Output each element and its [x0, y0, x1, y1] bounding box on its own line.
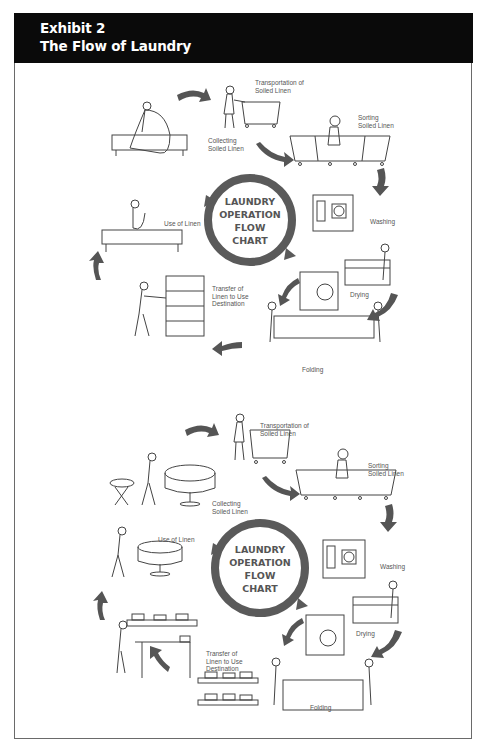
- folding-illustration: [268, 272, 382, 342]
- step-label-washing: Washing: [380, 563, 405, 571]
- flow-chart-panel-2: LAUNDRY OPERATION FLOW CHART Collecting …: [80, 410, 440, 730]
- center-line: FLOW: [210, 221, 290, 234]
- drying-illustration: [353, 581, 398, 623]
- step-label-use: Use of Linen: [164, 220, 201, 228]
- flow-chart-center-title: LAUNDRY OPERATION FLOW CHART: [220, 543, 300, 595]
- center-line: LAUNDRY: [220, 543, 300, 556]
- step-label-folding: Folding: [302, 366, 323, 374]
- arrow-icon: [177, 88, 211, 102]
- arrow-icon: [89, 251, 104, 280]
- step-label-transfer: Transfer of Linen to Use Destination: [212, 285, 249, 308]
- arrow-icon: [367, 293, 398, 321]
- arrow-icon: [212, 341, 242, 356]
- exhibit-header: Exhibit 2 The Flow of Laundry: [14, 13, 473, 63]
- center-line: LAUNDRY: [210, 195, 290, 208]
- arrow-icon: [185, 423, 219, 437]
- washing-illustration: [323, 540, 365, 578]
- center-line: CHART: [210, 234, 290, 247]
- transfer-illustration: [135, 276, 204, 336]
- collecting-illustration: [110, 453, 215, 506]
- step-label-sorting: Sorting Soiled Linen: [368, 462, 404, 477]
- step-label-sorting: Sorting Soiled Linen: [358, 114, 394, 129]
- step-label-washing: Washing: [370, 218, 395, 226]
- step-label-collecting: Collecting Soiled Linen: [208, 137, 244, 152]
- ring-arrowhead-icon: [296, 598, 308, 610]
- arrow-icon: [150, 646, 170, 672]
- step-label-drying: Drying: [356, 630, 375, 638]
- arrow-icon: [278, 278, 300, 306]
- flow-chart-panel-1: LAUNDRY OPERATION FLOW CHART Collecting …: [80, 80, 440, 400]
- step-label-drying: Drying: [350, 291, 369, 299]
- center-line: OPERATION: [220, 556, 300, 569]
- collecting-illustration: [112, 102, 187, 156]
- step-label-use: Use of Linen: [158, 536, 195, 544]
- use-illustration: [112, 527, 182, 577]
- arrow-icon: [282, 618, 304, 646]
- center-line: CHART: [220, 582, 300, 595]
- arrow-icon: [372, 168, 389, 196]
- step-label-transportation: Transportation of Soiled Linen: [255, 79, 304, 94]
- center-line: OPERATION: [210, 208, 290, 221]
- exhibit-title: The Flow of Laundry: [40, 38, 191, 54]
- exhibit-number: Exhibit 2: [40, 20, 105, 36]
- arrow-icon: [93, 591, 108, 620]
- arrow-icon: [262, 476, 300, 501]
- arrow-icon: [371, 630, 402, 658]
- step-label-folding: Folding: [310, 704, 331, 712]
- flow-chart-center-title: LAUNDRY OPERATION FLOW CHART: [210, 195, 290, 247]
- arrow-icon: [256, 142, 294, 167]
- center-line: FLOW: [220, 569, 300, 582]
- step-label-transportation: Transportation of Soiled Linen: [260, 422, 309, 437]
- washing-illustration: [313, 195, 353, 231]
- ring-arrowhead-icon: [284, 248, 296, 260]
- step-label-collecting: Collecting Soiled Linen: [212, 500, 248, 515]
- step-label-transfer: Transfer of Linen to Use Destination: [206, 650, 243, 673]
- drying-illustration: [345, 244, 390, 285]
- arrow-icon: [380, 504, 397, 532]
